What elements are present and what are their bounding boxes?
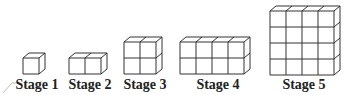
stages-figure: Stage 1 Stage 2 Stage 3 Stage 4 Stage 5	[0, 0, 359, 95]
cube-stack-stage-4	[180, 37, 250, 74]
cube-stack-stage-1	[23, 53, 45, 74]
cube-stack-stage-2	[69, 53, 107, 74]
cube-stack-stage-5	[270, 6, 340, 75]
stage-label-3: Stage 3	[123, 77, 166, 92]
stage-label-5: Stage 5	[282, 77, 325, 92]
cube-stack-stage-3	[124, 37, 162, 74]
stage-label-4: Stage 4	[196, 77, 239, 92]
stage-label-2: Stage 2	[68, 77, 111, 92]
cube-drawings	[23, 6, 340, 75]
stage-label-1: Stage 1	[15, 77, 58, 92]
